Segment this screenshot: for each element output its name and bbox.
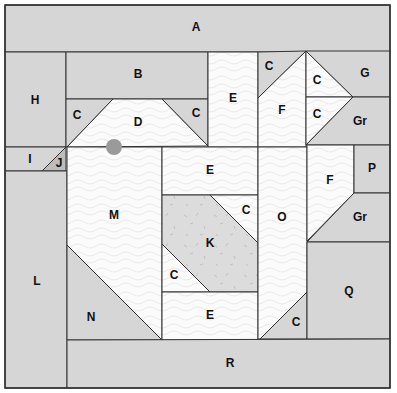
piece-label-p: P <box>368 161 376 175</box>
piece-label-c2: C <box>192 106 201 120</box>
piece-label-d: D <box>134 115 143 129</box>
piece-label-m: M <box>109 208 119 222</box>
piece-label-k: K <box>206 236 215 250</box>
piece-label-o: O <box>277 210 286 224</box>
piece-label-c1: C <box>73 108 82 122</box>
position-marker-dot <box>106 139 122 155</box>
quilt-pieces <box>5 5 390 388</box>
piece-label-a: A <box>192 20 201 34</box>
piece-label-c5: C <box>313 107 322 121</box>
piece-label-r: R <box>226 356 235 370</box>
piece-label-c8: C <box>292 315 301 329</box>
piece-label-l: L <box>33 274 40 288</box>
piece-label-g: G <box>360 66 369 80</box>
piece-label-gr2: Gr <box>353 210 367 224</box>
piece-label-gr1: Gr <box>353 114 367 128</box>
piece-label-n: N <box>87 310 96 324</box>
piece-label-c3: C <box>265 59 274 73</box>
piece-label-c7: C <box>170 268 179 282</box>
piece-label-e1: E <box>229 91 237 105</box>
piece-label-f1: F <box>278 103 285 117</box>
piece-label-f2: F <box>326 173 333 187</box>
piece-label-q: Q <box>344 284 353 298</box>
quilt-diagram: AHBCDCECFCCGGrIJLMNEKCCEOCFPGrQR <box>0 0 397 393</box>
piece-label-i: I <box>28 152 31 166</box>
piece-label-c6: C <box>242 203 251 217</box>
piece-label-e2: E <box>206 163 214 177</box>
piece-label-b: B <box>134 67 143 81</box>
piece-label-h: H <box>31 93 40 107</box>
piece-label-c4: C <box>313 73 322 87</box>
piece-label-e3: E <box>206 308 214 322</box>
piece-label-j: J <box>56 156 63 170</box>
